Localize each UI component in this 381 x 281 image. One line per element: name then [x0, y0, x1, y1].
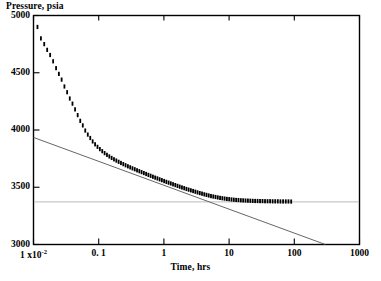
x-tick-label-exponent: -2	[41, 248, 46, 255]
x-tick-label-text: 1	[162, 248, 167, 258]
x-tick-label-text: 0. 1	[92, 248, 106, 258]
y-tick-label: 4500	[0, 67, 30, 77]
x-tick-label: 1	[129, 248, 199, 258]
x-tick-label: 0. 1	[64, 248, 134, 258]
plot-svg	[0, 0, 381, 281]
x-tick-label-text: 100	[287, 248, 301, 258]
y-tick-label: 3500	[0, 181, 30, 191]
x-tick-label: 1000	[325, 248, 381, 258]
x-tick-label: 10	[194, 248, 264, 258]
y-tick-label: 4000	[0, 124, 30, 134]
plot-frame	[34, 16, 360, 245]
y-tick-label: 5000	[0, 10, 30, 20]
x-axis-title: Time, hrs	[0, 262, 381, 272]
chart-container: Pressure, psia Time, hrs 500045004000350…	[0, 0, 381, 281]
x-tick-label-text: 1000	[350, 248, 369, 258]
x-tick-label-text: 10	[224, 248, 234, 258]
x-tick-label: 1 x10-2	[0, 248, 69, 260]
x-tick-label: 100	[259, 248, 329, 258]
x-tick-label-text: 1 x10	[20, 250, 41, 260]
